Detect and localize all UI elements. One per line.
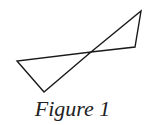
figure-caption: Figure 1 (0, 97, 145, 121)
left-triangle (17, 52, 91, 92)
right-triangle (91, 11, 141, 52)
